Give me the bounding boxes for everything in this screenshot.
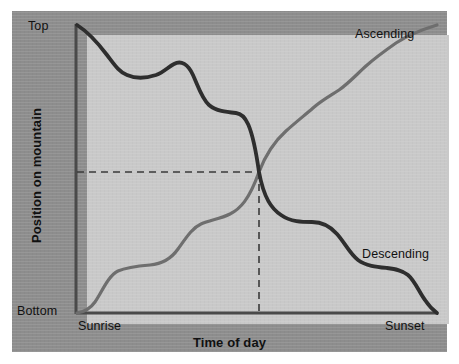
y-axis-title: Position on mountain xyxy=(30,96,43,256)
guide-lines xyxy=(77,172,259,313)
y-axis-tick-bottom: Bottom xyxy=(17,305,57,318)
x-axis-title: Time of day xyxy=(0,336,459,349)
figure-container: Top Bottom Sunrise Sunset Ascending Desc… xyxy=(0,0,459,364)
ascending-curve-label: Ascending xyxy=(355,28,414,41)
descending-curve xyxy=(77,25,437,313)
descending-curve-label: Descending xyxy=(362,248,429,261)
chart-svg xyxy=(0,0,459,364)
x-axis-tick-sunrise: Sunrise xyxy=(78,320,121,333)
axis-spines xyxy=(76,24,437,314)
x-axis-tick-sunset: Sunset xyxy=(385,320,425,333)
y-axis-tick-top: Top xyxy=(28,20,48,33)
